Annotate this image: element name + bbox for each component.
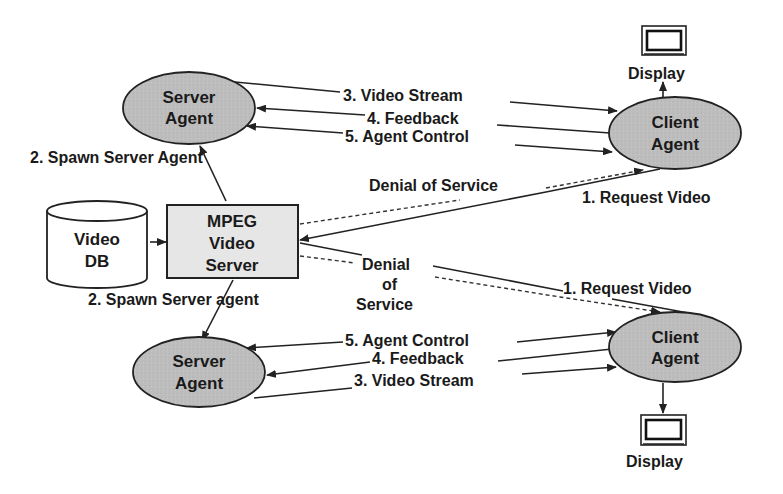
video-db-line2: DB [85, 252, 110, 271]
server-agent-bottom-line2: Agent [175, 374, 224, 393]
client-agent-top-line2: Agent [651, 135, 700, 154]
bottom-denial-line3: Service [356, 296, 413, 313]
top-video-stream-label: 3. Video Stream [343, 87, 463, 104]
client-agent-top-line1: Client [651, 113, 699, 132]
server-agent-bottom-line1: Server [173, 352, 226, 371]
bottom-spawn-label: 2. Spawn Server agent [88, 291, 259, 308]
display-bottom-label: Display [626, 453, 683, 470]
display-top: Display [628, 26, 686, 97]
top-request-label: 1. Request Video [582, 189, 711, 206]
client-agent-top: Client Agent [609, 97, 741, 169]
bottom-denial-line1: Denial [362, 256, 410, 273]
top-feedback-label: 4. Feedback [367, 110, 459, 127]
mpeg-server-line3: Server [206, 256, 259, 275]
server-agent-top-line1: Server [163, 88, 216, 107]
display-top-label: Display [628, 65, 685, 82]
top-agent-control-label: 5. Agent Control [345, 128, 469, 145]
client-agent-bottom-line1: Client [651, 328, 699, 347]
server-agent-bottom: Server Agent [133, 337, 265, 407]
video-db: Video DB [47, 201, 166, 288]
monitor-icon [641, 415, 686, 445]
bottom-video-stream-label: 3. Video Stream [354, 372, 474, 389]
bottom-feedback-label: 4. Feedback [372, 350, 464, 367]
monitor-icon [642, 26, 686, 55]
top-spawn-label: 2. Spawn Server Agent [30, 149, 203, 166]
client-agent-bottom: Client Agent [609, 312, 741, 382]
top-denial-label: Denial of Service [369, 177, 498, 194]
display-bottom: Display [626, 383, 686, 470]
server-agent-top-line2: Agent [165, 109, 214, 128]
bottom-denial-line2: of [382, 276, 398, 293]
architecture-diagram: Server Agent Client Agent Display 3. Vid… [0, 0, 783, 494]
bottom-agent-control-label: 5. Agent Control [345, 332, 469, 349]
bottom-request-label: 1. Request Video [563, 280, 692, 297]
client-agent-bottom-line2: Agent [651, 349, 700, 368]
mpeg-server-line2: Video [209, 234, 255, 253]
video-db-line1: Video [74, 230, 120, 249]
mpeg-server-line1: MPEG [207, 212, 257, 231]
mpeg-video-server: MPEG Video Server [167, 205, 298, 278]
